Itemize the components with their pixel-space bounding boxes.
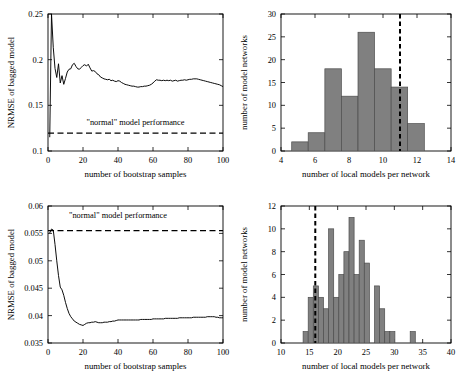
panel-top-left: 0204060801000.10.150.20.25"normal" model… [0,0,231,192]
panel-top-left-xticklabel: 0 [46,156,50,165]
histogram-bar [408,124,425,151]
panel-bottom-left-plot-frame [48,206,223,343]
panel-top-left-yticklabel: 0.15 [28,101,43,110]
histogram-bar [325,69,341,151]
figure-root: 0204060801000.10.150.20.25"normal" model… [0,0,461,384]
panel-bottom-left-xticklabel: 60 [149,348,157,357]
panel-bottom-left-xticklabel: 20 [79,348,87,357]
panel-bottom-left-yticklabel: 0.055 [24,229,43,238]
panel-bottom-right-yticklabel: 8 [272,248,276,257]
panel-bottom-right-yticklabel: 12 [268,202,276,211]
panel-top-right-xticklabel: 4 [279,156,284,165]
panel-top-left-xticklabel: 80 [184,156,192,165]
panel-bottom-left-ylabel: NRMSE of bagged model [6,228,16,320]
panel-bottom-right-canvas: 10152025303540024681012number of local m… [231,192,461,384]
panel-top-right-yticklabel: 15 [268,79,276,88]
panel-bottom-left-xticklabel: 0 [46,348,50,357]
histogram-bar [334,297,339,343]
panel-top-right-bars [292,32,425,151]
panel-bottom-right-yticklabel: 0 [272,339,276,348]
panel-top-left-yticklabel: 0.25 [28,10,43,19]
histogram-bar [358,32,374,151]
panel-top-right: 468101214051015202530number of local mod… [231,0,461,192]
panel-bottom-left-yticklabel: 0.05 [28,257,43,266]
panel-bottom-right-bars [303,217,415,343]
histogram-bar [364,263,369,343]
panel-bottom-left-yticklabel: 0.04 [28,312,43,321]
panel-bottom-left: 0204060801000.0350.040.0450.050.0550.06"… [0,192,231,384]
panel-bottom-left-xticklabel: 40 [114,348,122,357]
panel-bottom-right-xticklabel: 10 [277,348,285,357]
panel-bottom-right-yticklabel: 10 [268,225,276,234]
panel-top-left-xticklabel: 100 [217,156,230,165]
panel-top-right-yticklabel: 0 [272,147,276,156]
panel-top-right-xticklabel: 10 [379,156,387,165]
panel-bottom-left-data-line [50,229,223,325]
histogram-bar [410,332,415,343]
panel-top-right-yticklabel: 20 [268,56,276,65]
panel-top-left-xlabel: number of bootstrap samples [85,169,187,179]
panel-top-left-annotation: "normal" model performance [87,118,185,127]
panel-top-right-yticklabel: 10 [268,101,276,110]
panel-bottom-right: 10152025303540024681012number of local m… [231,192,461,384]
histogram-bar [339,275,344,344]
histogram-bar [375,69,392,151]
histogram-bar [354,275,359,344]
panel-top-left-yticklabel: 0.1 [33,147,43,156]
panel-bottom-right-xticklabel: 15 [305,348,313,357]
panel-bottom-right-xticklabel: 40 [447,348,455,357]
panel-top-right-ylabel: number of model networks [239,34,249,130]
histogram-bar [308,297,313,343]
panel-top-left-yticklabel: 0.2 [33,56,43,65]
panel-bottom-left-annotation: "normal" model performance [69,211,167,220]
panel-bottom-left-xticklabel: 80 [184,348,192,357]
histogram-bar [292,142,308,151]
panel-top-right-xticklabel: 8 [347,156,351,165]
panel-top-right-yticklabel: 25 [268,33,276,42]
panel-top-right-xticklabel: 12 [413,156,421,165]
panel-top-left-xticklabel: 40 [114,156,122,165]
histogram-bar [375,286,380,343]
panel-top-left-xticklabel: 60 [149,156,157,165]
histogram-bar [341,96,358,151]
panel-top-right-yticklabel: 5 [272,124,276,133]
panel-top-right-xlabel: number of local models per network [302,169,430,179]
histogram-bar [385,332,390,343]
panel-top-right-xticklabel: 14 [447,156,456,165]
histogram-bar [324,309,329,343]
panel-bottom-left-yticklabel: 0.045 [24,284,43,293]
histogram-bar [308,133,325,151]
panel-bottom-right-xlabel: number of local models per network [302,361,430,371]
panel-bottom-right-xticklabel: 30 [390,348,398,357]
panel-top-left-ylabel: NRMSE of bagged model [6,36,16,128]
panel-top-right-xticklabel: 6 [313,156,317,165]
panel-bottom-left-yticklabel: 0.035 [24,339,43,348]
panel-bottom-left-yticklabel: 0.06 [28,202,43,211]
histogram-bar [390,332,395,343]
histogram-bar [349,217,354,343]
histogram-bar [344,252,349,343]
panel-bottom-right-xticklabel: 35 [418,348,426,357]
panel-top-left-canvas: 0204060801000.10.150.20.25"normal" model… [0,0,231,192]
panel-bottom-left-xlabel: number of bootstrap samples [85,361,187,371]
panel-top-right-yticklabel: 30 [268,10,276,19]
panel-bottom-right-yticklabel: 4 [272,293,277,302]
histogram-bar [359,240,364,343]
panel-bottom-left-canvas: 0204060801000.0350.040.0450.050.0550.06"… [0,192,231,384]
panel-bottom-left-xticklabel: 100 [217,348,230,357]
panel-top-left-xticklabel: 20 [79,156,87,165]
panel-bottom-right-yticklabel: 2 [272,316,276,325]
histogram-bar [303,332,308,343]
panel-bottom-right-xticklabel: 20 [333,348,341,357]
panel-bottom-right-yticklabel: 6 [272,271,276,280]
panel-bottom-right-xticklabel: 25 [362,348,370,357]
panel-top-right-canvas: 468101214051015202530number of local mod… [231,0,461,192]
histogram-bar [329,229,334,343]
histogram-bar [380,309,385,343]
panel-bottom-right-ylabel: number of model networks [239,226,249,322]
histogram-bar [318,297,323,343]
panel-top-left-plot-frame [48,14,223,151]
